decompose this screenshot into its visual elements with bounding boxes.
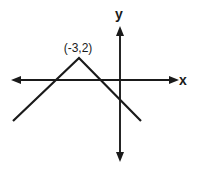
y-axis-label: y — [115, 6, 123, 22]
y-axis-down-arrow-icon — [116, 152, 124, 162]
x-axis-left-arrow-icon — [11, 76, 21, 84]
inverted-v-curve — [13, 58, 141, 121]
graph-canvas: x y (-3,2) — [0, 0, 198, 170]
x-axis-label: x — [179, 72, 187, 88]
vertex-point-label: (-3,2) — [64, 41, 93, 55]
y-axis-up-arrow-icon — [116, 26, 124, 36]
x-axis-right-arrow-icon — [169, 76, 179, 84]
coordinate-graph-figure: x y (-3,2) — [0, 0, 198, 170]
